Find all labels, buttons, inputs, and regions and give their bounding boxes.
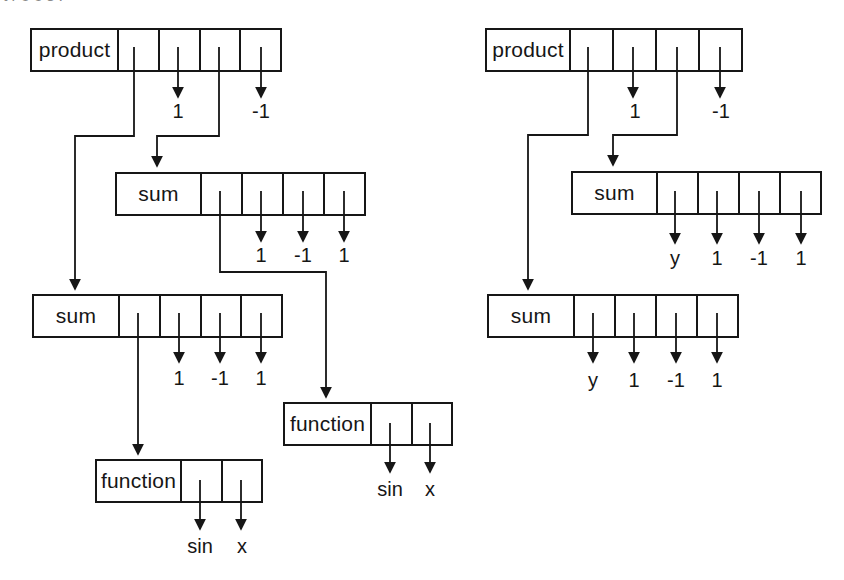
pointer-cell bbox=[738, 173, 779, 213]
pointer-cell bbox=[411, 404, 452, 444]
leaf-label: -1 bbox=[211, 368, 229, 388]
leaf-label: -1 bbox=[750, 248, 768, 268]
pointer-cell bbox=[200, 174, 241, 214]
node-left-function-left: function bbox=[95, 459, 263, 503]
leaf-label: y bbox=[670, 248, 680, 268]
leaf-label: 1 bbox=[172, 101, 183, 121]
leaf-label: 1 bbox=[173, 368, 184, 388]
leaf-label: 1 bbox=[795, 248, 806, 268]
pointer-cell bbox=[200, 296, 241, 336]
pointer-cell bbox=[180, 461, 221, 501]
pointer-cell bbox=[779, 173, 820, 213]
pointer-cell bbox=[612, 30, 655, 70]
clipped-text-fragment: trees. bbox=[3, 0, 113, 5]
node-left-function-right: function bbox=[283, 402, 453, 446]
leaf-label: -1 bbox=[712, 101, 730, 121]
pointer-cell bbox=[282, 174, 323, 214]
node-left-sum-lower: sum bbox=[32, 294, 283, 338]
leaf-label: x bbox=[237, 536, 247, 556]
leaf-label: 1 bbox=[629, 101, 640, 121]
leaf-label: sin bbox=[187, 536, 213, 556]
leaf-label: 1 bbox=[255, 245, 266, 265]
node-label: function bbox=[97, 461, 180, 501]
pointer-cell bbox=[241, 174, 282, 214]
pointer-cell bbox=[323, 174, 364, 214]
pointer-cell bbox=[158, 30, 199, 70]
pointer-cell bbox=[239, 30, 280, 70]
node-label: function bbox=[285, 404, 370, 444]
leaf-label: 1 bbox=[255, 368, 266, 388]
leaf-label: 1 bbox=[338, 245, 349, 265]
pointer-cell bbox=[569, 30, 612, 70]
pointer-cell bbox=[655, 30, 698, 70]
expression-tree-figure: trees. product sum sum function function… bbox=[0, 0, 844, 580]
pointer-cell bbox=[614, 296, 655, 336]
leaf-label: sin bbox=[377, 479, 403, 499]
leaf-label: -1 bbox=[667, 370, 685, 390]
leaf-label: 1 bbox=[628, 370, 639, 390]
leaf-label: 1 bbox=[711, 370, 722, 390]
pointer-cell bbox=[698, 30, 741, 70]
leaf-label: 1 bbox=[711, 248, 722, 268]
pointer-cell bbox=[117, 30, 158, 70]
pointer-cell bbox=[573, 296, 614, 336]
node-left-sum-upper: sum bbox=[115, 172, 366, 216]
node-label: sum bbox=[117, 174, 200, 214]
pointer-cell bbox=[370, 404, 411, 444]
leaf-label: x bbox=[425, 479, 435, 499]
node-right-sum-upper: sum bbox=[571, 171, 822, 215]
node-label: sum bbox=[489, 296, 573, 336]
node-label: sum bbox=[34, 296, 118, 336]
leaf-label: -1 bbox=[252, 101, 270, 121]
node-right-sum-lower: sum bbox=[487, 294, 739, 338]
node-label: product bbox=[487, 30, 569, 70]
leaf-label: y bbox=[588, 370, 598, 390]
pointer-cell bbox=[118, 296, 159, 336]
node-label: product bbox=[32, 30, 117, 70]
pointer-cell bbox=[221, 461, 262, 501]
pointer-cell bbox=[697, 173, 738, 213]
node-left-product: product bbox=[30, 28, 282, 72]
pointer-cell bbox=[159, 296, 200, 336]
pointer-cell bbox=[240, 296, 281, 336]
node-right-product: product bbox=[485, 28, 743, 72]
pointer-cell bbox=[199, 30, 240, 70]
pointer-cell bbox=[655, 296, 696, 336]
pointer-cell bbox=[656, 173, 697, 213]
pointer-cell bbox=[696, 296, 737, 336]
leaf-label: -1 bbox=[294, 245, 312, 265]
node-label: sum bbox=[573, 173, 656, 213]
